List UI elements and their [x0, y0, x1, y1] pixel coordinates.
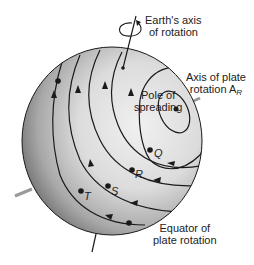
point-t-label: T — [84, 190, 91, 202]
equator-dot — [126, 220, 132, 226]
point-q-label: Q — [154, 147, 163, 159]
point-r-label: R — [135, 168, 143, 180]
earth-axis-bottom — [92, 234, 96, 252]
plate-axis-lower — [15, 189, 32, 196]
pole-of-spreading-label: Pole of spreading — [134, 89, 182, 113]
point-t-dot — [78, 188, 84, 194]
point-s-dot — [105, 183, 111, 189]
earth-axis-label: Earth's axis of rotation — [145, 14, 202, 38]
point-q-dot — [147, 147, 153, 153]
equator-label: Equator of plate rotation — [153, 222, 217, 246]
point-r-dot — [129, 167, 135, 173]
point-s-label: S — [111, 185, 118, 197]
upper-left-dot — [55, 78, 61, 84]
plate-axis-label: Axis of plate rotation AR — [186, 71, 246, 99]
earth-sphere — [22, 47, 202, 235]
